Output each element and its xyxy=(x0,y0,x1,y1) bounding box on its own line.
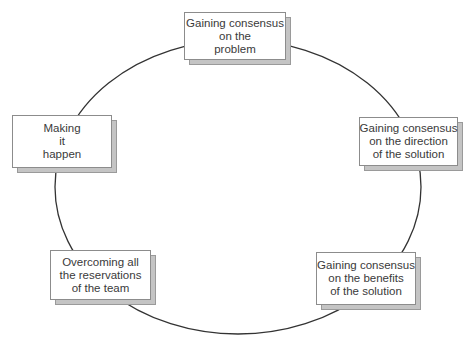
stage-text-line: Gaining consensus xyxy=(360,122,458,135)
stage-text-line: of the solution xyxy=(330,285,402,298)
stage-text-line: Making xyxy=(43,122,80,135)
stage-text-line: on the benefits xyxy=(328,272,403,285)
stage-text-line: of the team xyxy=(72,282,130,295)
stage-text-line: Gaining consensus xyxy=(317,259,415,272)
stage-box-direction-consensus: Gaining consensus on the direction of th… xyxy=(359,117,458,166)
stage-text-line: on the xyxy=(219,30,251,43)
stage-text-line: of the solution xyxy=(373,148,445,161)
stage-text-line: happen xyxy=(43,148,81,161)
stage-label: Gaining consensus on the direction of th… xyxy=(359,117,458,166)
stage-box-making-it-happen: Making it happen xyxy=(12,115,112,168)
stage-label: Gaining consensus on the problem xyxy=(184,12,286,60)
stage-label: Making it happen xyxy=(12,115,112,168)
stage-text-line: Overcoming all xyxy=(62,256,139,269)
stage-box-problem-consensus: Gaining consensus on the problem xyxy=(184,12,286,60)
stage-text-line: Gaining consensus xyxy=(186,17,284,30)
stage-text-line: it xyxy=(59,135,65,148)
stage-label: Overcoming all the reservations of the t… xyxy=(50,250,151,300)
stage-label: Gaining consensus on the benefits of the… xyxy=(316,252,416,305)
stage-text-line: problem xyxy=(214,43,256,56)
stage-text-line: the reservations xyxy=(60,269,142,282)
stage-text-line: on the direction xyxy=(369,135,448,148)
stage-box-benefits-consensus: Gaining consensus on the benefits of the… xyxy=(316,252,416,305)
stage-box-overcoming-reservations: Overcoming all the reservations of the t… xyxy=(50,250,151,300)
